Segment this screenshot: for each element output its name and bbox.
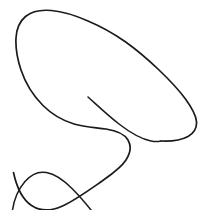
sketch-drawing-svg	[0, 0, 209, 210]
sketch-canvas	[0, 0, 209, 210]
